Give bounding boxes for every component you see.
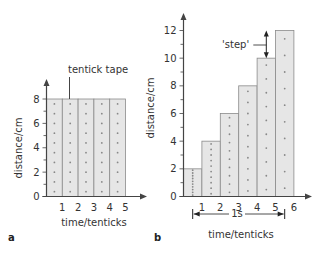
y-tick-label: 8 — [33, 94, 39, 105]
bracket-label-1s: 1s — [231, 208, 243, 219]
tape-dot — [85, 181, 87, 183]
tape-dot — [284, 71, 286, 73]
tape-dot — [54, 113, 56, 115]
tape-dot — [192, 189, 194, 191]
y-axis-arrow-icon — [181, 13, 187, 20]
tape-dot — [265, 106, 267, 108]
tape-dot — [229, 142, 231, 144]
tape-dot — [210, 149, 212, 151]
tape-dot — [117, 191, 119, 193]
tape-dot — [192, 191, 194, 193]
x-tick-label: 4 — [254, 202, 260, 213]
tape-dot — [192, 178, 194, 180]
tape-dot — [284, 88, 286, 90]
tape-dot — [210, 165, 212, 167]
tape-dot — [101, 122, 103, 124]
tape-dot — [85, 171, 87, 173]
arrow-left-icon — [194, 212, 200, 217]
tape-dot — [101, 191, 103, 193]
tape-dot — [229, 191, 231, 193]
tape-dot — [54, 142, 56, 144]
tape-dot — [247, 90, 249, 92]
x-tick-label: 5 — [272, 202, 278, 213]
tape-dot — [247, 135, 249, 137]
tape-dot — [284, 154, 286, 156]
y-axis-label-b: distance/cm — [145, 78, 156, 139]
tape-dot — [210, 143, 212, 145]
tape-dot — [54, 181, 56, 183]
tape-dot — [69, 113, 71, 115]
tape-dot — [229, 175, 231, 177]
x-axis-arrow-icon — [140, 194, 147, 200]
tape-dot — [229, 158, 231, 160]
tape-dot — [265, 133, 267, 135]
tape-dot — [54, 122, 56, 124]
tape-dot — [247, 168, 249, 170]
x-tick-label: 2 — [75, 202, 81, 213]
tape-dot — [247, 190, 249, 192]
tape-dot — [192, 194, 194, 196]
tape-dot — [284, 138, 286, 140]
tape-dot — [229, 133, 231, 135]
tape-dot — [284, 38, 286, 40]
tape-dot — [210, 171, 212, 173]
tape-dot — [247, 157, 249, 159]
y-axis-arrow-icon — [44, 79, 50, 86]
tape-dot — [85, 132, 87, 134]
y-tick-label: 0 — [170, 191, 176, 202]
tape-dot — [101, 103, 103, 105]
tape-dot — [247, 146, 249, 148]
tape-dot — [85, 191, 87, 193]
tape-dot — [117, 132, 119, 134]
x-tick-label: 3 — [91, 202, 97, 213]
tape-dot — [54, 132, 56, 134]
y-tick-label: 4 — [170, 136, 176, 147]
tape-dot — [265, 78, 267, 80]
tape-dot — [117, 103, 119, 105]
tape-dot — [210, 182, 212, 184]
x-axis-label-b: time/tenticks — [208, 229, 274, 240]
tape-dot — [284, 121, 286, 123]
arrow-right-icon — [278, 212, 284, 217]
tape-dot — [117, 171, 119, 173]
tape-dot — [54, 161, 56, 163]
tape-dot — [85, 113, 87, 115]
chart-a: 0246812345 — [33, 77, 147, 213]
tape-dot — [229, 183, 231, 185]
tape-dot — [101, 142, 103, 144]
tape-dot — [101, 181, 103, 183]
tape-dot — [101, 113, 103, 115]
tape-dot — [54, 103, 56, 105]
tape-dot — [265, 161, 267, 163]
tape-dot — [265, 175, 267, 177]
tape-dot — [284, 55, 286, 57]
y-tick-label: 10 — [164, 53, 177, 64]
x-tick-label: 4 — [107, 202, 113, 213]
tape-dot — [69, 152, 71, 154]
x-tick-label: 1 — [199, 202, 205, 213]
tape-dot — [69, 132, 71, 134]
tape-dot — [69, 122, 71, 124]
tape-dot — [85, 161, 87, 163]
tape-dot — [117, 113, 119, 115]
x-axis-label-a: time/tenticks — [61, 217, 127, 228]
annotation-step: 'step' — [222, 39, 249, 50]
panel-label-b: b — [154, 232, 161, 243]
y-axis-label-a: distance/cm — [13, 118, 24, 179]
tape-dot — [265, 147, 267, 149]
tape-dot — [192, 172, 194, 174]
y-tick-label: 0 — [33, 191, 39, 202]
tape-dot — [210, 187, 212, 189]
tape-dot — [117, 161, 119, 163]
figure: 0246812345 024681012123456 tentick tape … — [0, 0, 322, 257]
tape-dot — [85, 122, 87, 124]
tape-dot — [284, 104, 286, 106]
y-tick-label: 6 — [33, 118, 39, 129]
tape-dot — [101, 161, 103, 163]
tape-dot — [85, 152, 87, 154]
tape-dot — [229, 150, 231, 152]
tape-dot — [117, 152, 119, 154]
y-tick-label: 2 — [170, 163, 176, 174]
tape-dot — [192, 175, 194, 177]
tape-dot — [265, 189, 267, 191]
